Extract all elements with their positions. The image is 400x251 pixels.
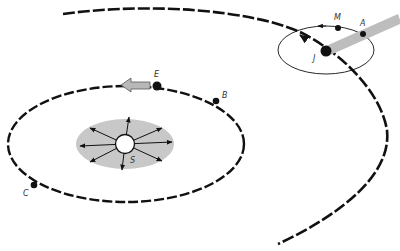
point-a-label: A [359, 19, 365, 28]
orbit-diagram: S E B C J M A [0, 0, 400, 251]
point-c-label: C [23, 189, 29, 198]
sun-icon [116, 135, 135, 154]
point-c-dot [31, 182, 38, 189]
earth-label: E [154, 70, 160, 79]
velocity-arrow-icon [121, 78, 150, 92]
outer-orbit-direction-arrow-icon [300, 35, 304, 38]
point-b-dot [213, 98, 220, 105]
jupiter-dot [321, 46, 332, 57]
earth-dot [153, 82, 162, 91]
jupiter-label: J [311, 54, 316, 63]
point-a-dot [360, 31, 366, 37]
sun-label: S [130, 156, 135, 165]
point-b-label: B [222, 91, 228, 100]
moon-label: M [334, 13, 341, 22]
moon-dot [335, 25, 341, 31]
